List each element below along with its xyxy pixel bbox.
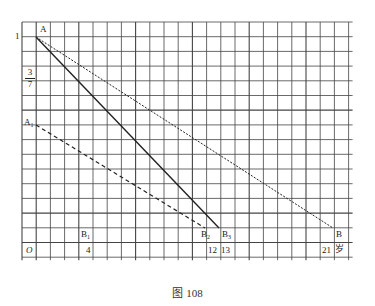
x-label-21: 21 bbox=[322, 246, 331, 255]
point-b2-subscript: 2 bbox=[207, 234, 210, 240]
line-a-b bbox=[36, 37, 333, 228]
point-label-a: A bbox=[40, 25, 47, 34]
point-b1-subscript: 1 bbox=[87, 234, 90, 240]
point-label-b: B bbox=[336, 230, 342, 239]
line-a-b3 bbox=[36, 37, 219, 228]
point-label-b3: B3 bbox=[222, 230, 231, 242]
point-label-b1: B1 bbox=[81, 230, 90, 242]
plot-lines bbox=[36, 37, 333, 228]
figure-caption: 图 108 bbox=[0, 284, 375, 300]
y-label-fraction: 3 7 bbox=[25, 68, 35, 89]
x-label-13: 13 bbox=[221, 246, 230, 255]
graph-diagram bbox=[0, 0, 375, 306]
y-label-one: 1 bbox=[15, 32, 20, 41]
point-label-b2: B2 bbox=[201, 230, 210, 242]
x-label-12: 12 bbox=[208, 246, 217, 255]
point-label-a1: A1 bbox=[24, 118, 34, 130]
grid-lines bbox=[22, 22, 353, 260]
x-label-origin: O bbox=[26, 246, 33, 255]
point-b3-subscript: 3 bbox=[228, 234, 231, 240]
x-label-4: 4 bbox=[86, 246, 91, 255]
fraction-denominator: 7 bbox=[28, 79, 33, 89]
point-a1-subscript: 1 bbox=[31, 122, 34, 128]
fraction-numerator: 3 bbox=[28, 67, 33, 77]
x-axis-unit: 岁 bbox=[335, 245, 344, 254]
